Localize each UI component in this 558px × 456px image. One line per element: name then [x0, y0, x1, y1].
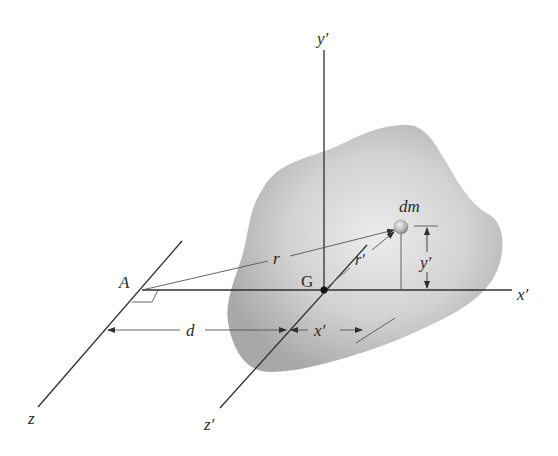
label-d: d [186, 321, 195, 340]
rigid-body [227, 125, 502, 372]
label-z-prime-axis: z′ [203, 415, 215, 434]
z-axis [38, 241, 182, 407]
right-angle-marker [132, 290, 158, 302]
label-r-prime: r′ [355, 251, 365, 268]
mass-element-dm [394, 220, 408, 234]
centroid-point-g [321, 287, 328, 294]
label-y-prime-dim: y′ [418, 253, 432, 272]
label-r: r [273, 249, 280, 268]
label-x-prime-dim: x′ [313, 321, 326, 340]
label-dm: dm [399, 197, 420, 216]
label-x-prime-axis: x′ [516, 285, 529, 304]
label-point-g: G [301, 272, 313, 291]
label-y-prime-axis: y′ [315, 29, 329, 48]
label-point-a: A [118, 273, 130, 292]
label-z-axis: z [27, 409, 35, 428]
parallel-axis-diagram: y′ x′ z′ z A G dm r r′ y′ x′ d [0, 0, 558, 456]
